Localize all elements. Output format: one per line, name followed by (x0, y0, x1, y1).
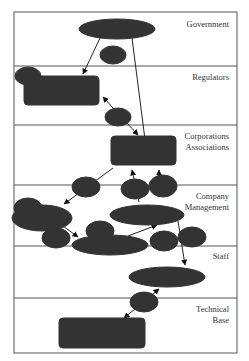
svg-text:8: 8 (54, 235, 58, 243)
node-underwriters-classifiers: Underwriters Classifiers (111, 136, 176, 165)
svg-text:5: 5 (161, 183, 165, 191)
svg-text:Classifiers: Classifiers (125, 153, 161, 163)
link-label-12: 12 (130, 292, 158, 312)
svg-text:Shipyard: Shipyard (95, 240, 126, 250)
layer-label-management: Management (185, 202, 230, 212)
link-label-9: 9 (86, 221, 114, 241)
link-label-1: 1 (100, 46, 126, 64)
svg-text:Legislators: Legislators (98, 24, 136, 34)
arrow-legislators-to-national-admin (83, 38, 100, 74)
link-label-2: 2 (15, 67, 41, 85)
svg-text:Ship performance: Ship performance (72, 323, 133, 333)
svg-text:10: 10 (161, 238, 169, 246)
svg-text:Captain: Captain (154, 272, 181, 282)
layer-label-government: Government (187, 19, 230, 29)
svg-text:1: 1 (111, 52, 115, 60)
svg-text:9: 9 (98, 228, 102, 236)
layer-label-company: Company (196, 191, 230, 201)
svg-text:Shipowner: Shipowner (129, 210, 166, 220)
link-label-10: 10 (150, 231, 178, 251)
svg-text:11: 11 (189, 234, 196, 242)
arrow-shipyard-to-shipowner (128, 225, 157, 236)
layer-label-base: Base (212, 315, 229, 325)
layer-label-staff: Staff (213, 251, 230, 261)
node-captain: Captain (129, 267, 205, 287)
svg-text:Administrations: Administrations (34, 92, 89, 102)
svg-text:2: 2 (26, 73, 30, 81)
layer-label-technical: Technical (196, 304, 230, 314)
link-label-4: 4 (121, 179, 149, 199)
link-label-7: 7 (14, 198, 42, 218)
svg-text:7: 7 (26, 205, 30, 213)
link-label-11: 11 (178, 227, 206, 247)
node-ship-performance: Ship performance and limits (59, 318, 145, 348)
link-label-8: 8 (42, 228, 70, 248)
link-label-3: 3 (105, 108, 131, 126)
svg-text:National: National (46, 81, 76, 91)
node-shipowner: Shipowner (110, 205, 184, 225)
svg-text:6: 6 (84, 184, 88, 192)
layer-label-corporations: Corporations (185, 131, 229, 141)
link-label-6: 6 (72, 177, 100, 197)
layer-label-associations: Associations (186, 142, 229, 152)
layer-label-regulators: Regulators (192, 72, 229, 82)
svg-text:12: 12 (141, 299, 149, 307)
svg-text:and limits: and limits (85, 335, 119, 345)
link-label-5: 5 (149, 175, 177, 197)
svg-text:3: 3 (116, 114, 120, 122)
svg-text:Underwriters: Underwriters (121, 141, 166, 151)
diagram-canvas: Government Regulators Corporations Assoc… (0, 0, 249, 361)
node-legislators: Legislators (79, 19, 155, 39)
svg-text:4: 4 (133, 186, 137, 194)
